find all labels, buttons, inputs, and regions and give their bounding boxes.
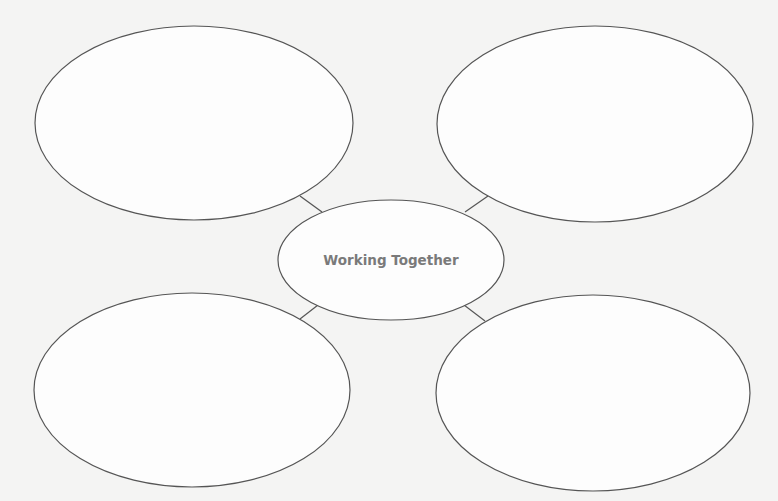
bubble-map-diagram: Working Together [0,0,778,501]
bubble-bottom-right[interactable] [436,295,750,491]
center-label: Working Together [278,200,504,320]
bubble-top-right[interactable] [437,26,753,222]
bubble-top-left[interactable] [35,26,353,220]
bubble-bottom-left[interactable] [34,293,350,487]
